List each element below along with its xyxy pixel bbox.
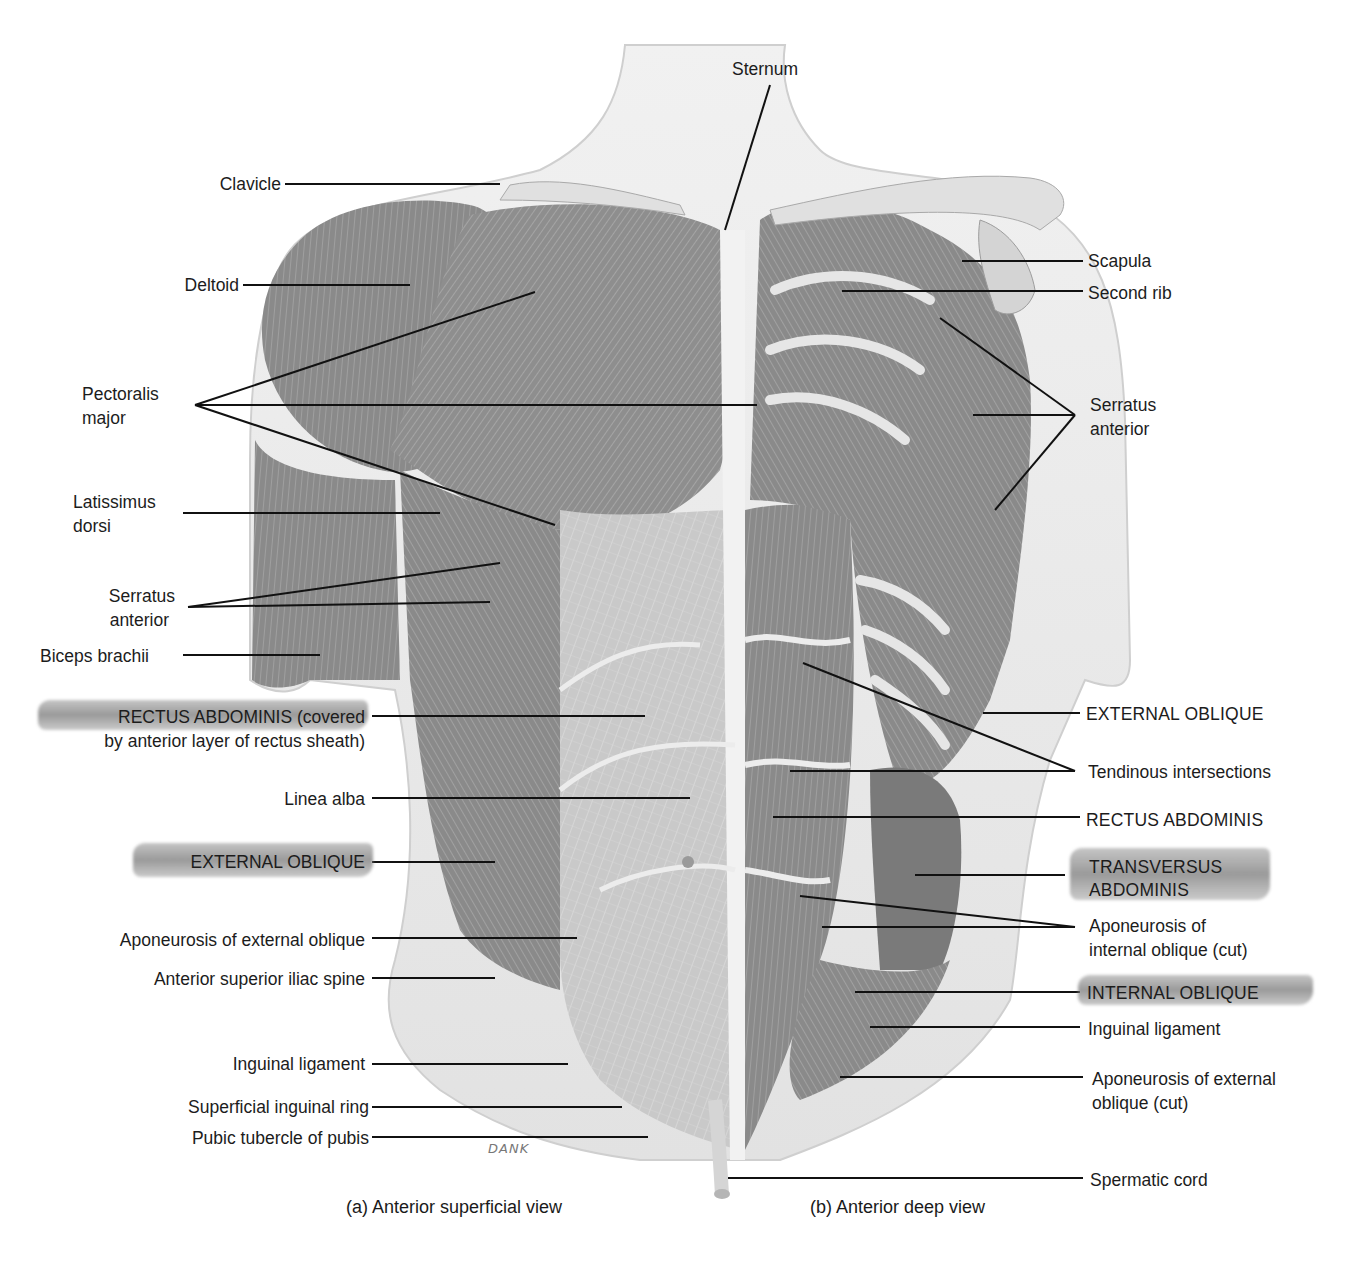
label-pectoralis-major-2: major (82, 406, 126, 430)
label-latissimus-dorsi-2: dorsi (73, 514, 111, 538)
label-aponeurosis-internal-oblique-1: Aponeurosis of (1089, 914, 1206, 938)
label-biceps-brachii: Biceps brachii (40, 644, 149, 668)
label-aponeurosis-external-oblique-cut-2: oblique (cut) (1092, 1091, 1188, 1115)
label-aponeurosis-external-oblique-cut-1: Aponeurosis of external (1092, 1067, 1276, 1091)
label-anterior-superior-iliac-spine: Anterior superior iliac spine (154, 967, 365, 991)
label-transversus-abdominis-2: ABDOMINIS (1089, 878, 1189, 902)
label-inguinal-ligament-right: Inguinal ligament (1088, 1017, 1220, 1041)
label-second-rib: Second rib (1088, 281, 1172, 305)
label-clavicle: Clavicle (220, 172, 281, 196)
label-scapula: Scapula (1088, 249, 1151, 273)
label-serratus-anterior-left-1: Serratus (109, 584, 175, 608)
label-serratus-anterior-left-2: anterior (110, 608, 169, 632)
label-pectoralis-major-1: Pectoralis (82, 382, 159, 406)
label-sternum: Sternum (732, 57, 798, 81)
rectus-sheath (560, 510, 740, 1150)
caption-anterior-superficial-view: (a) Anterior superficial view (346, 1197, 562, 1218)
caption-anterior-deep-view: (b) Anterior deep view (810, 1197, 985, 1218)
label-rectus-abdominis: RECTUS ABDOMINIS (1086, 808, 1263, 832)
spermatic-cord (715, 1100, 722, 1195)
label-serratus-anterior-right-2: anterior (1090, 417, 1149, 441)
label-pubic-tubercle: Pubic tubercle of pubis (192, 1126, 369, 1150)
label-spermatic-cord: Spermatic cord (1090, 1168, 1208, 1192)
label-linea-alba: Linea alba (284, 787, 365, 811)
label-aponeurosis-external-oblique: Aponeurosis of external oblique (120, 928, 365, 952)
label-external-oblique-left: EXTERNAL OBLIQUE (191, 850, 365, 874)
label-latissimus-dorsi-1: Latissimus (73, 490, 156, 514)
label-superficial-inguinal-ring: Superficial inguinal ring (188, 1095, 369, 1119)
label-internal-oblique: INTERNAL OBLIQUE (1087, 981, 1259, 1005)
label-inguinal-ligament-left: Inguinal ligament (233, 1052, 365, 1076)
artist-signature: DANK (488, 1141, 529, 1156)
transversus-abdominis-muscle (870, 767, 961, 970)
label-aponeurosis-internal-oblique-2: internal oblique (cut) (1089, 938, 1248, 962)
label-rectus-abdominis-covered-1: RECTUS ABDOMINIS (covered (118, 705, 365, 729)
label-tendinous-intersections: Tendinous intersections (1088, 760, 1271, 784)
label-external-oblique-right: EXTERNAL OBLIQUE (1086, 702, 1264, 726)
label-deltoid: Deltoid (185, 273, 239, 297)
label-rectus-abdominis-covered-2: by anterior layer of rectus sheath) (104, 729, 365, 753)
label-serratus-anterior-right-1: Serratus (1090, 393, 1156, 417)
label-transversus-abdominis-1: TRANSVERSUS (1089, 855, 1222, 879)
